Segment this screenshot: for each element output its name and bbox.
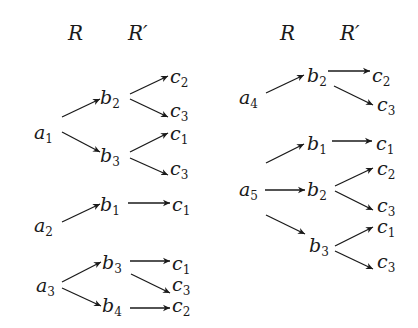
- arrow-a1-b3: [62, 132, 100, 152]
- node-c3: c3: [170, 157, 188, 182]
- arrow-a2-b1: [62, 204, 100, 222]
- arrow-b3-c1: [335, 227, 373, 246]
- arrow-a4-b2: [266, 75, 304, 93]
- group-a2: a2 b1 c1: [34, 193, 190, 239]
- arrow-a1-b2: [62, 99, 100, 117]
- node-b2: b2: [307, 64, 327, 89]
- node-b2: b2: [100, 86, 120, 111]
- node-b2: b2: [307, 178, 327, 203]
- arrow-b3-c3: [131, 274, 170, 293]
- arrow-b3-c3: [335, 251, 373, 269]
- arrow-b3-c3: [130, 158, 168, 175]
- node-a2: a2: [34, 214, 53, 239]
- group-a1: a1 b2 b3 c2 c3 c1 c3: [34, 65, 188, 182]
- arrow-a5-b3: [266, 215, 305, 234]
- arrow-b3-c1: [130, 133, 168, 152]
- node-c1: c1: [376, 132, 394, 157]
- group-a3: a3 b3 b4 c1 c3 c2: [36, 251, 190, 319]
- arrow-b2-c2: [335, 168, 373, 186]
- node-b4: b4: [102, 294, 122, 319]
- node-c1: c1: [172, 193, 190, 218]
- relation-diagram: R R′ R R′ a1 b2 b3 c2 c3 c1 c3 a2 b1 c1 …: [0, 0, 418, 328]
- node-c3: c3: [170, 99, 188, 124]
- node-b3: b3: [100, 144, 120, 169]
- arrow-b2-c3: [130, 99, 168, 117]
- group-a5: a5 b1 b2 b3 c1 c2 c3 c1 c3: [239, 132, 395, 275]
- node-b1: b1: [307, 132, 327, 157]
- node-c2: c2: [377, 157, 395, 182]
- node-c3: c3: [377, 93, 395, 118]
- node-a5: a5: [239, 178, 258, 203]
- node-b3: b3: [309, 234, 329, 259]
- node-a3: a3: [36, 274, 55, 299]
- node-c3: c3: [377, 250, 395, 275]
- arrow-b2-c2: [130, 76, 168, 94]
- node-c2: c2: [170, 65, 188, 90]
- arrow-b2-c3: [335, 191, 373, 210]
- header-right-R: R: [279, 21, 295, 45]
- node-b3: b3: [102, 251, 122, 276]
- arrow-a3-b4: [62, 288, 101, 306]
- header-left-R-prime: R′: [127, 21, 148, 45]
- node-c1: c1: [170, 122, 188, 147]
- arrow-a3-b3: [62, 262, 101, 282]
- header-left-R: R: [67, 21, 83, 45]
- arrow-b2-c3: [334, 86, 373, 105]
- group-a4: a4 b2 c2 c3: [239, 64, 395, 118]
- arrow-a5-b1: [266, 144, 304, 163]
- header-right-R-prime: R′: [339, 21, 360, 45]
- node-a1: a1: [34, 121, 53, 146]
- node-b1: b1: [100, 193, 120, 218]
- node-a4: a4: [239, 86, 258, 111]
- node-c2: c2: [372, 64, 390, 89]
